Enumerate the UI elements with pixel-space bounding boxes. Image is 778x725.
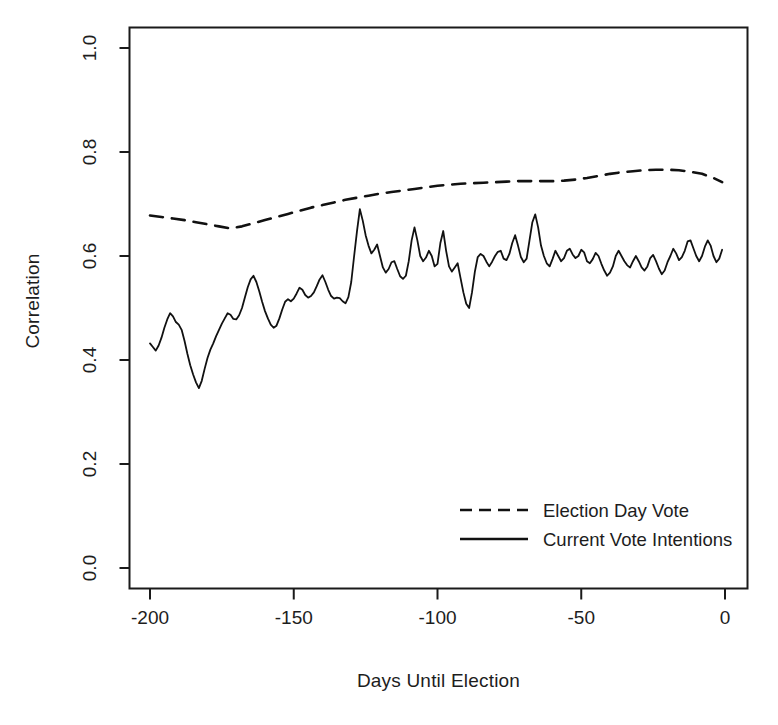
y-tick-label-1.0: 1.0 [79, 18, 101, 78]
x-tick-label--200: -200 [105, 607, 195, 629]
legend-label-current-vote-intentions: Current Vote Intentions [543, 529, 732, 551]
y-axis-title: Correlation [22, 206, 44, 396]
x-axis-title: Days Until Election [129, 670, 748, 692]
x-tick-label--50: -50 [536, 607, 626, 629]
y-tick-label-0.6: 0.6 [79, 226, 101, 286]
legend-label-election-day-vote: Election Day Vote [543, 500, 689, 522]
x-tick-label--150: -150 [249, 607, 339, 629]
y-tick-label-0.8: 0.8 [79, 122, 101, 182]
y-tick-label-0.4: 0.4 [79, 330, 101, 390]
y-tick-label-0.2: 0.2 [79, 434, 101, 494]
x-tick-label-0: 0 [680, 607, 770, 629]
y-tick-label-0.0: 0.0 [79, 538, 101, 598]
chart-figure: Correlation Days Until Election -200-150… [0, 0, 778, 725]
x-tick-label--100: -100 [393, 607, 483, 629]
